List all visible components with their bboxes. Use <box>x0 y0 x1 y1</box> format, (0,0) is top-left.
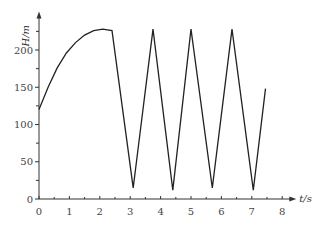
y-axis-arrow-icon <box>37 11 42 18</box>
y-tick-label: 0 <box>27 194 33 205</box>
x-tick-label: 4 <box>157 206 163 217</box>
y-tick-label: 150 <box>14 82 33 93</box>
x-tick-label: 7 <box>249 206 255 217</box>
data-series <box>39 29 266 190</box>
x-tick-label: 1 <box>66 206 72 217</box>
x-tick-label: 8 <box>279 206 285 217</box>
x-tick-label: 6 <box>218 206 224 217</box>
x-tick-label: 2 <box>97 206 103 217</box>
line-chart: 012345678050100150200t/sH/m <box>0 0 320 233</box>
x-tick-label: 0 <box>36 206 42 217</box>
y-tick-label: 100 <box>14 119 33 130</box>
height-line <box>39 29 266 190</box>
x-axis-arrow-icon <box>289 197 296 202</box>
y-tick-label: 50 <box>20 156 33 167</box>
x-tick-label: 5 <box>188 206 194 217</box>
x-tick-label: 3 <box>127 206 133 217</box>
x-axis-label: t/s <box>299 193 312 204</box>
y-axis-label: H/m <box>20 25 31 48</box>
